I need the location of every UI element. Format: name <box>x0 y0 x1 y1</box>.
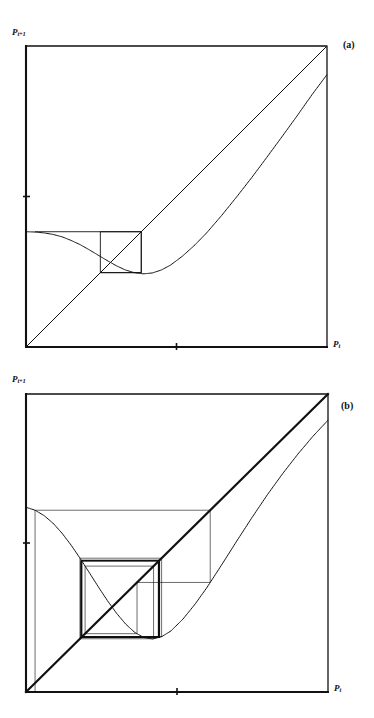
panel-a-tag: (a) <box>343 40 355 50</box>
panel-a-y-axis-label: Pt+1 <box>12 28 26 38</box>
panel-a-plot <box>0 0 374 360</box>
panel-b-x-axis-label: Pt <box>334 684 341 694</box>
panel-a-y-axis-label-sub: t+1 <box>18 30 26 37</box>
panel-b-tag: (b) <box>341 401 353 411</box>
panel-b-y-axis-label: Pt+1 <box>12 375 26 385</box>
identity-line <box>26 46 327 347</box>
panel-b-x-axis-label-sub: t <box>340 686 342 693</box>
identity-line <box>26 394 328 692</box>
return-map-curve <box>26 420 328 639</box>
panel-b-y-axis-label-sub: t+1 <box>18 377 26 384</box>
return-map-curve <box>26 75 327 274</box>
panel-a-x-axis-label-sub: t <box>339 342 341 349</box>
cobweb-path <box>35 232 141 273</box>
figure-container: Pt+1 Pt (a) Pt+1 Pt (b) <box>0 0 374 718</box>
panel-a-x-axis-label: Pt <box>333 340 340 350</box>
cobweb-group <box>35 232 141 273</box>
plot-group <box>23 393 329 695</box>
panel-b <box>0 360 374 718</box>
panel-b-plot <box>0 360 374 718</box>
panel-a: Pt+1 Pt (a) <box>0 0 374 360</box>
plot-group <box>23 45 328 350</box>
